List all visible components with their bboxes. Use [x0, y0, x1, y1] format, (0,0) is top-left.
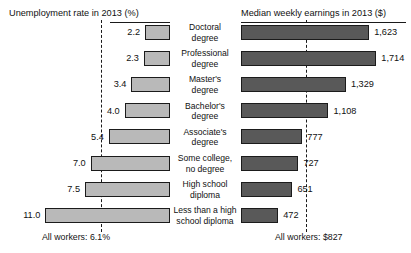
earnings-value-label: 651: [297, 183, 312, 195]
unemployment-pane: 3.4: [0, 72, 170, 97]
unemployment-bar: [145, 25, 170, 40]
unemployment-value-label: 3.4: [114, 78, 127, 90]
chart-row: 2.2Doctoraldegree1,623: [0, 20, 411, 45]
unemployment-pane: 2.2: [0, 20, 170, 45]
unemployment-pane: 11.0: [0, 203, 170, 228]
category-label-line: High school: [183, 179, 228, 189]
chart-row: 11.0Less than a highschool diploma472: [0, 203, 411, 228]
earnings-bar: [241, 77, 346, 92]
unemployment-value-label: 2.3: [126, 52, 139, 64]
earnings-bar: [241, 208, 278, 223]
category-label-line: degree: [192, 111, 219, 121]
earnings-bar: [241, 25, 369, 40]
earnings-value-label: 727: [303, 157, 318, 169]
earnings-bar: [241, 129, 302, 144]
chart-row: 2.3Professionaldegree1,714: [0, 46, 411, 71]
education-pays-chart: Unemployment rate in 2013 (%) Median wee…: [0, 0, 411, 253]
category-label-line: Less than a high: [173, 205, 236, 215]
earnings-value-label: 777: [307, 131, 322, 143]
category-label-line: degree: [192, 137, 219, 147]
earnings-pane: 777: [241, 125, 411, 150]
category-label-line: no degree: [186, 164, 225, 174]
earnings-value-label: 472: [283, 209, 298, 221]
unemployment-bar: [109, 129, 170, 144]
unemployment-bar: [144, 51, 170, 66]
earnings-bar: [241, 51, 376, 66]
chart-row: 5.4Associate'sdegree777: [0, 125, 411, 150]
category-label-line: Professional: [181, 48, 228, 58]
category-label: High schooldiploma: [171, 177, 239, 202]
unemployment-value-label: 4.0: [107, 105, 120, 117]
unemployment-bar: [131, 77, 170, 92]
earnings-value-label: 1,623: [374, 26, 397, 38]
chart-row: 7.5High schooldiploma651: [0, 177, 411, 202]
category-label: Master'sdegree: [171, 72, 239, 97]
unemployment-pane: 7.5: [0, 177, 170, 202]
category-label-line: Doctoral: [189, 22, 221, 32]
unemployment-value-label: 7.0: [73, 157, 86, 169]
left-chart-header: Unemployment rate in 2013 (%): [9, 8, 139, 19]
chart-row: 3.4Master'sdegree1,329: [0, 72, 411, 97]
category-label-line: Some college,: [178, 153, 232, 163]
unemployment-bar: [85, 182, 170, 197]
category-label-line: degree: [192, 59, 219, 69]
earnings-value-label: 1,714: [381, 52, 404, 64]
right-chart-header: Median weekly earnings in 2013 ($): [241, 8, 386, 19]
earnings-pane: 1,329: [241, 72, 411, 97]
chart-row: 4.0Bachelor'sdegree1,108: [0, 99, 411, 124]
category-label-line: school diploma: [176, 216, 233, 226]
unemployment-value-label: 2.2: [127, 26, 140, 38]
unemployment-value-label: 11.0: [23, 209, 40, 221]
unemployment-value-label: 5.4: [91, 131, 104, 143]
unemployment-bar: [45, 208, 170, 223]
earnings-bar: [241, 156, 298, 171]
earnings-pane: 472: [241, 203, 411, 228]
unemployment-bar: [125, 103, 170, 118]
earnings-value-label: 1,329: [351, 78, 374, 90]
category-label: Professionaldegree: [171, 46, 239, 71]
category-label: Doctoraldegree: [171, 20, 239, 45]
earnings-pane: 651: [241, 177, 411, 202]
category-label-line: diploma: [190, 190, 220, 200]
unemployment-pane: 4.0: [0, 99, 170, 124]
category-label-line: Associate's: [183, 127, 226, 137]
earnings-bar: [241, 182, 292, 197]
unemployment-pane: 5.4: [0, 125, 170, 150]
unemployment-pane: 2.3: [0, 46, 170, 71]
earnings-pane: 727: [241, 151, 411, 176]
unemployment-value-label: 7.5: [67, 183, 80, 195]
chart-row: 7.0Some college,no degree727: [0, 151, 411, 176]
unemployment-pane: 7.0: [0, 151, 170, 176]
unemployment-bar: [91, 156, 170, 171]
category-label: Some college,no degree: [171, 151, 239, 176]
right-all-workers-footer: All workers: $827: [275, 232, 342, 243]
category-label: Associate'sdegree: [171, 125, 239, 150]
earnings-pane: 1,108: [241, 99, 411, 124]
category-label-line: degree: [192, 33, 219, 43]
earnings-value-label: 1,108: [333, 105, 356, 117]
category-label: Less than a highschool diploma: [171, 203, 239, 228]
earnings-bar: [241, 103, 328, 118]
category-label-line: Bachelor's: [185, 101, 225, 111]
category-label-line: Master's: [189, 74, 221, 84]
earnings-pane: 1,714: [241, 46, 411, 71]
category-label: Bachelor'sdegree: [171, 99, 239, 124]
category-label-line: degree: [192, 85, 219, 95]
earnings-pane: 1,623: [241, 20, 411, 45]
left-all-workers-footer: All workers: 6.1%: [42, 232, 110, 243]
